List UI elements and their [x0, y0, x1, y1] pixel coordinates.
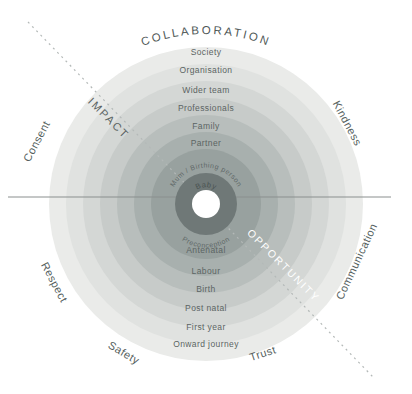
ring-label-birth: Birth [196, 284, 215, 294]
influence-rings-diagram: Society Organisation Wider team Professi… [0, 0, 412, 394]
center-dot [192, 190, 220, 218]
ring-label-family: Family [192, 121, 220, 131]
ring-label-organisation: Organisation [180, 65, 233, 75]
ring-label-labour: Labour [192, 266, 221, 276]
diagram-canvas: Society Organisation Wider team Professi… [0, 0, 412, 394]
heading-collaboration: COLLABORATION [139, 24, 272, 48]
ring-label-society: Society [191, 47, 222, 57]
value-label-consent: Consent [21, 119, 52, 164]
ring-label-onward-journey: Onward journey [173, 339, 239, 349]
ring-label-first-year: First year [186, 322, 225, 332]
ring-label-post-natal: Post natal [185, 303, 227, 313]
ring-label-professionals: Professionals [178, 103, 234, 113]
ring-label-wider-team: Wider team [182, 85, 229, 95]
ring-label-partner: Partner [191, 138, 222, 148]
